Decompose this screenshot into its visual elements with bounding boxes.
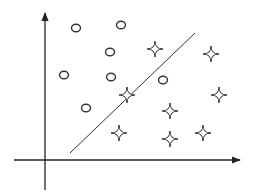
circle-icon: [106, 48, 115, 56]
star-icon: [162, 103, 178, 119]
circle-icon: [72, 24, 81, 32]
star-icon: [203, 46, 219, 62]
circle-icon: [107, 73, 116, 81]
circle-icon: [60, 71, 69, 79]
circle-icon: [159, 76, 168, 84]
star-class-points: [111, 41, 227, 147]
circle-icon: [82, 104, 91, 112]
circle-class-points: [60, 21, 168, 112]
star-icon: [162, 131, 178, 147]
star-icon: [195, 125, 211, 141]
scatter-diagram: [0, 0, 256, 193]
star-icon: [111, 125, 127, 141]
star-icon: [211, 87, 227, 103]
star-icon: [147, 41, 163, 57]
decision-boundary-line: [70, 33, 195, 153]
circle-icon: [117, 21, 126, 29]
star-icon: [119, 87, 135, 103]
